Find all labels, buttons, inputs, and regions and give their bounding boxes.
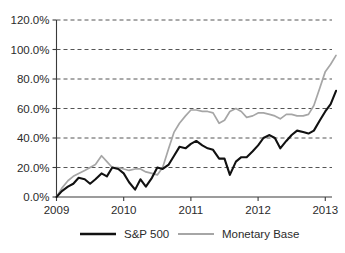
x-axis-ticks: 20092010201120122013 [44, 197, 338, 216]
x-axis-tick-label: 2009 [44, 204, 70, 216]
x-axis-tick-label: 2013 [312, 204, 338, 216]
line-chart: 0.0%20.0%40.0%60.0%80.0%100.0%120.0% 200… [0, 0, 345, 253]
y-axis-tick-label: 80.0% [17, 73, 50, 85]
x-axis-tick-label: 2011 [179, 204, 204, 216]
chart-container: 0.0%20.0%40.0%60.0%80.0%100.0%120.0% 200… [0, 0, 345, 253]
y-axis-ticks: 0.0%20.0%40.0%60.0%80.0%100.0%120.0% [10, 14, 56, 203]
legend-label: Monetary Base [222, 228, 299, 240]
x-axis-tick-label: 2010 [111, 204, 137, 216]
y-axis-tick-label: 0.0% [23, 191, 49, 203]
y-axis-tick-label: 40.0% [17, 132, 50, 144]
legend: S&P 500Monetary Base [80, 228, 299, 240]
y-axis-tick-label: 120.0% [10, 14, 49, 26]
legend-item-monetary-base[interactable]: Monetary Base [178, 228, 299, 240]
series-line-sp500 [57, 91, 337, 197]
y-axis-tick-label: 20.0% [17, 162, 50, 174]
gridlines [57, 20, 333, 168]
y-axis-tick-label: 100.0% [10, 44, 49, 56]
legend-item-sp500[interactable]: S&P 500 [80, 228, 169, 240]
x-axis-tick-label: 2012 [245, 204, 271, 216]
y-axis-tick-label: 60.0% [17, 103, 50, 115]
legend-label: S&P 500 [124, 228, 169, 240]
